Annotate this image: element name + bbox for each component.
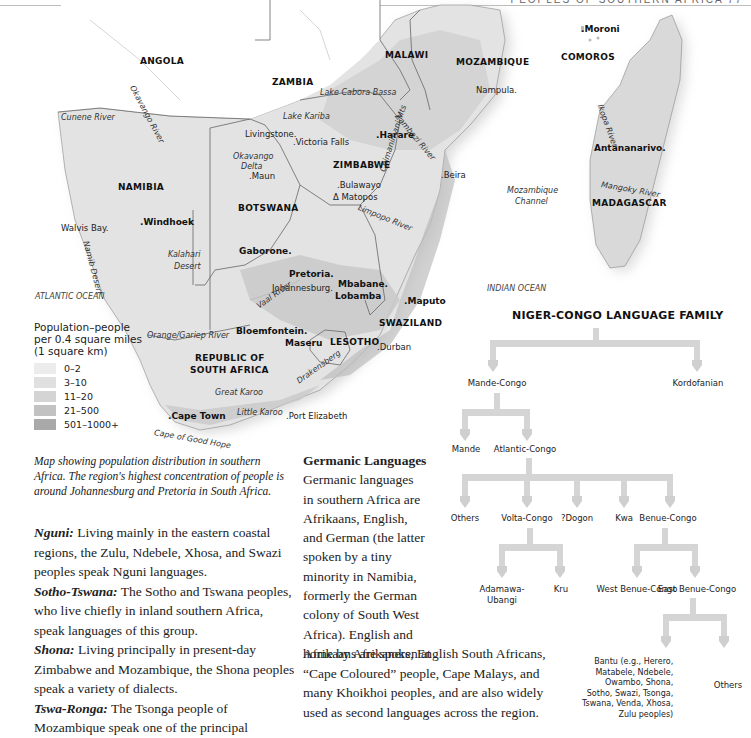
- capital-label: Lobamba: [335, 291, 381, 301]
- capital-label: Pretoria.: [289, 269, 334, 279]
- legend-title-line: Population–people: [34, 321, 142, 333]
- text-line: “Cape Coloured” people, Cape Malays, and: [303, 664, 548, 684]
- country-label: ANGOLA: [140, 56, 184, 66]
- tree-node-mande: Mande: [452, 444, 481, 454]
- legend-label: 0–2: [64, 363, 81, 374]
- text-line: Matabele, Ndebele,: [582, 668, 673, 679]
- legend-swatch: [34, 419, 56, 430]
- tree-connector: [490, 340, 496, 360]
- text-line: Sotho, Swazi, Tsonga,: [582, 689, 673, 700]
- tree-node-mande_congo: Mande-Congo: [468, 378, 527, 388]
- capital-label: Bloemfontein.: [236, 326, 307, 336]
- text-line: Africa). English and: [303, 625, 453, 644]
- geo-feature-label: Cunene River: [61, 113, 115, 122]
- capital-label: Mbabane.: [338, 279, 388, 289]
- country-label: MALAWI: [385, 50, 428, 60]
- tree-connector: [462, 474, 468, 496]
- tree-title: NIGER-CONGO LANGUAGE FAMILY: [512, 309, 723, 322]
- country-label: SWAZILAND: [379, 318, 442, 328]
- text-line: and German (the latter: [303, 528, 453, 547]
- geo-feature-label: Little Karoo: [237, 408, 283, 417]
- city-label: Livingstone.: [245, 129, 297, 139]
- text-line: Zulu peoples): [582, 710, 673, 721]
- geo-feature-label: Okavango: [233, 152, 274, 161]
- tree-connector: [526, 458, 532, 474]
- branch-arrow-icon: [572, 496, 582, 508]
- tree-node-benue_congo: Benue-Congo: [639, 513, 696, 523]
- city-label: .Beira: [441, 170, 466, 180]
- text-line: many Khoikhoi peoples, and are also wide…: [303, 683, 548, 703]
- country-label: COMOROS: [561, 52, 615, 62]
- tree-connector: [663, 614, 669, 636]
- legend-item: 0–2: [34, 363, 81, 374]
- tree-node-volta_congo: Volta-Congo: [501, 513, 552, 523]
- geo-feature-label: Channel: [515, 197, 548, 206]
- city-label: .Port Elizabeth: [286, 411, 347, 421]
- tree-node-atlantic_congo: Atlantic-Congo: [494, 444, 557, 454]
- capital-label: Maseru: [285, 338, 322, 348]
- tree-node-others1: Others: [451, 513, 480, 523]
- city-label: .Victoria Falls: [293, 137, 349, 147]
- city-label: .Durban: [377, 342, 411, 352]
- branch-arrow-icon: [665, 496, 675, 508]
- capital-label: .Windhoek: [140, 217, 194, 227]
- text-line: spoken by a tiny: [303, 547, 453, 566]
- tree-connector: [621, 474, 627, 496]
- legend-item: 21–500: [34, 405, 99, 416]
- tree-node-adamawa: Adamawa-: [480, 584, 525, 594]
- tree-connector: [663, 614, 727, 621]
- city-label: Nampula.: [476, 85, 517, 95]
- tree-node-others2: Others: [714, 680, 743, 690]
- tree-node-kwa: Kwa: [615, 513, 633, 523]
- legend-title: Population–people per 0.4 square miles (…: [34, 321, 142, 357]
- country-label: ZAMBIA: [272, 77, 313, 87]
- text-line: minority in Namibia,: [303, 567, 453, 586]
- southern-africa-map: ANGOLAZAMBIAMALAWIMOZAMBIQUECOMOROSZIMBA…: [0, 0, 751, 440]
- branch-arrow-icon: [555, 566, 565, 578]
- tree-connector: [527, 528, 533, 544]
- text-line: Owambo, Shona,: [582, 678, 673, 689]
- geo-feature-label: Orange/Gariep River: [147, 331, 229, 340]
- branch-arrow-icon: [719, 636, 729, 648]
- geo-feature-label: Great Karoo: [215, 388, 263, 397]
- tree-connector: [634, 544, 640, 566]
- country-label: MOZAMBIQUE: [456, 57, 529, 67]
- legend-swatch: [34, 405, 56, 416]
- legend-label: 21–500: [64, 405, 99, 416]
- tree-connector: [662, 528, 668, 544]
- group-term: Nguni:: [34, 525, 74, 540]
- tree-connector: [690, 598, 696, 614]
- tree-connector: [694, 340, 700, 360]
- branch-arrow-icon: [460, 496, 470, 508]
- group-term: Shona:: [34, 642, 75, 657]
- group-nguni: Nguni: Living mainly in the eastern coas…: [34, 523, 296, 582]
- germanic-text-wide: home by Afrikaners, English South Africa…: [303, 644, 548, 722]
- language-groups-text: Nguni: Living mainly in the eastern coas…: [34, 523, 296, 738]
- group-shona: Shona: Living principally in present-day…: [34, 640, 296, 699]
- text-line: in southern Africa are: [303, 490, 453, 509]
- text-line: used as second languages across the regi…: [303, 703, 548, 723]
- text-line: colony of South West: [303, 605, 453, 624]
- country-label: NAMIBIA: [118, 182, 164, 192]
- branch-arrow-icon: [460, 429, 470, 441]
- germanic-title: Germanic Languages: [303, 451, 453, 470]
- capital-label: .Cape Town: [168, 411, 226, 421]
- country-label: MADAGASCAR: [592, 198, 667, 208]
- branch-arrow-icon: [692, 360, 702, 372]
- city-label: Walvis Bay.: [61, 223, 109, 233]
- legend-label: 11–20: [64, 391, 93, 402]
- text-line: Tswana, Venda, Xhosa,: [582, 699, 673, 710]
- tree-connector: [692, 544, 698, 566]
- legend-swatch: [34, 391, 56, 402]
- geo-feature-label: Desert: [174, 262, 201, 271]
- geo-feature-label: Delta: [241, 162, 262, 171]
- running-head: PEOPLES OF SOUTHERN AFRICA 77: [511, 0, 744, 5]
- branch-arrow-icon: [619, 496, 629, 508]
- tree-connector: [574, 474, 580, 496]
- map-terrain: [0, 0, 751, 440]
- legend-item: 3–10: [34, 377, 87, 388]
- geo-feature-label: Lake Cabora Bassa: [320, 88, 396, 97]
- tree-connector: [462, 409, 530, 416]
- geo-feature-label: Mozambique: [507, 186, 558, 195]
- legend-swatch: [34, 377, 56, 388]
